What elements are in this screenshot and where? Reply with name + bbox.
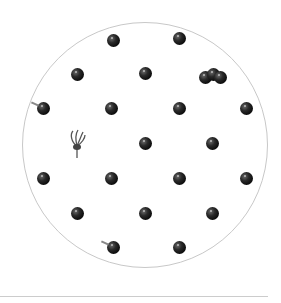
berry <box>107 241 120 254</box>
berry <box>139 207 152 220</box>
dried-flower-icon <box>67 128 87 162</box>
divider-line <box>0 296 268 297</box>
berry <box>105 102 118 115</box>
berry <box>240 172 253 185</box>
berry <box>173 102 186 115</box>
berry <box>240 102 253 115</box>
berry <box>71 68 84 81</box>
berry <box>139 67 152 80</box>
berry <box>173 172 186 185</box>
berry <box>139 137 152 150</box>
berry <box>37 102 50 115</box>
berry <box>206 137 219 150</box>
berry <box>214 71 227 84</box>
berry <box>173 32 186 45</box>
berry <box>173 241 186 254</box>
berry <box>107 34 120 47</box>
berry <box>71 207 84 220</box>
berry <box>37 172 50 185</box>
berry <box>206 207 219 220</box>
berry <box>105 172 118 185</box>
